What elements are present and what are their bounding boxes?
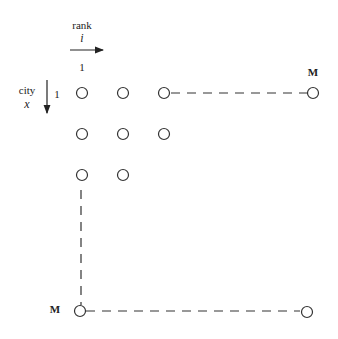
grid-node-circle [159,88,170,99]
grid-node-circle [302,307,313,318]
dashed-lines [81,93,307,311]
grid-node-circle [308,88,319,99]
city-label: city [19,84,36,96]
grid-node-circle [118,129,129,140]
city-symbol: x [24,98,29,110]
rank-start-index: 1 [79,61,85,73]
grid-node-circle [77,88,88,99]
top-right-m-label: M [308,66,318,78]
grid-node-circle [159,129,170,140]
grid-nodes [75,88,319,318]
bottom-left-m-label: M [50,303,60,315]
grid-node-circle [77,129,88,140]
grid-node-circle [77,170,88,181]
diagram-graphics [0,0,338,339]
city-start-index: 1 [54,88,60,100]
diagram-canvas: rank i 1 city x 1 M M [0,0,338,339]
grid-node-circle [75,306,86,317]
rank-symbol: i [80,32,83,44]
grid-node-circle [118,88,129,99]
rank-label: rank [72,19,92,31]
grid-node-circle [118,170,129,181]
